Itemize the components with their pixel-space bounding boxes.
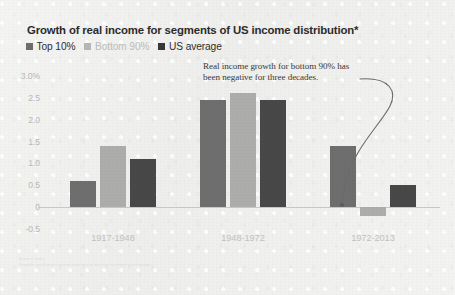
annotation-arrow-icon [0, 0, 455, 295]
footnote-label: Source notes [19, 256, 45, 261]
footnote-text: Illegible small print source note line a… [19, 262, 439, 268]
chart-figure: Growth of real income for segments of US… [0, 0, 455, 295]
